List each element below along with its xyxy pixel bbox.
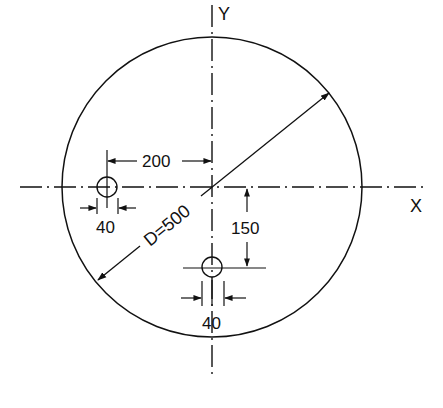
y-axis-label: Y: [218, 4, 230, 24]
offset-200-dimension: 200: [108, 152, 211, 171]
offset-150-dimension: 150: [231, 189, 259, 266]
bottom-hole-diameter-label: 40: [202, 314, 221, 333]
offset-200-label: 200: [142, 152, 170, 171]
left-hole: 40: [80, 150, 136, 237]
x-axis-label: X: [410, 196, 422, 216]
offset-150-label: 150: [231, 219, 259, 238]
left-hole-diameter-label: 40: [96, 218, 115, 237]
diameter-label: D=500: [140, 201, 194, 250]
circular-plate-diagram: Y X D=500 40 200 40: [0, 0, 443, 408]
bottom-hole: 40: [181, 257, 266, 333]
